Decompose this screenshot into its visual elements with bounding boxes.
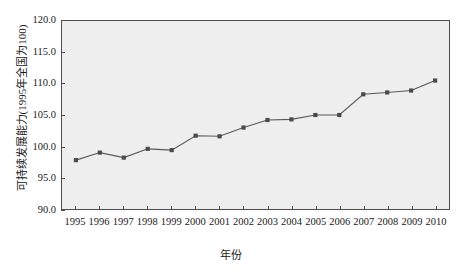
x-tick-mark — [123, 206, 124, 210]
x-axis-tick-labels: 1995199619971998199920002001200220032004… — [0, 213, 462, 233]
y-tick-label: 100.0 — [0, 141, 56, 152]
data-point-marker — [98, 151, 102, 155]
x-tick-label: 2010 — [416, 216, 456, 228]
data-point-marker — [433, 78, 437, 82]
x-tick-mark — [292, 206, 293, 210]
data-point-marker — [122, 156, 126, 160]
x-tick-mark — [436, 206, 437, 210]
x-tick-mark — [147, 206, 148, 210]
x-tick-mark — [388, 206, 389, 210]
x-tick-mark — [171, 206, 172, 210]
y-tick-label: 115.0 — [0, 46, 56, 57]
y-tick-mark — [61, 147, 65, 148]
x-tick-mark — [219, 206, 220, 210]
chart-figure: 可持续发展能力(1995年全国为100) 90.095.0100.0105.01… — [0, 0, 462, 280]
y-tick-label: 105.0 — [0, 109, 56, 120]
data-point-marker — [265, 118, 269, 122]
x-tick-mark — [364, 206, 365, 210]
y-axis-tick-labels: 90.095.0100.0105.0110.0115.0120.0 — [0, 0, 58, 280]
data-point-marker — [313, 113, 317, 117]
x-tick-mark — [195, 206, 196, 210]
y-tick-mark — [61, 20, 65, 21]
data-point-marker — [385, 90, 389, 94]
x-tick-mark — [340, 206, 341, 210]
data-point-marker — [289, 117, 293, 121]
x-tick-mark — [268, 206, 269, 210]
y-tick-mark — [61, 210, 65, 211]
x-axis-title: 年份 — [0, 246, 462, 262]
data-point-marker — [337, 113, 341, 117]
data-point-marker — [409, 88, 413, 92]
data-point-marker — [241, 125, 245, 129]
data-point-marker — [146, 147, 150, 151]
data-point-marker — [170, 148, 174, 152]
data-point-marker — [217, 134, 221, 138]
x-tick-mark — [412, 206, 413, 210]
y-tick-mark — [61, 52, 65, 53]
line-series-svg — [62, 21, 449, 209]
data-point-marker — [194, 134, 198, 138]
x-tick-mark — [316, 206, 317, 210]
y-tick-label: 120.0 — [0, 14, 56, 25]
x-tick-mark — [75, 206, 76, 210]
y-tick-mark — [61, 115, 65, 116]
y-tick-label: 95.0 — [0, 172, 56, 183]
x-tick-mark — [243, 206, 244, 210]
data-point-marker — [74, 158, 78, 162]
plot-area — [61, 20, 450, 210]
y-tick-label: 110.0 — [0, 77, 56, 88]
y-tick-mark — [61, 83, 65, 84]
x-tick-mark — [99, 206, 100, 210]
y-tick-mark — [61, 178, 65, 179]
data-point-marker — [361, 92, 365, 96]
series-line — [76, 81, 435, 161]
